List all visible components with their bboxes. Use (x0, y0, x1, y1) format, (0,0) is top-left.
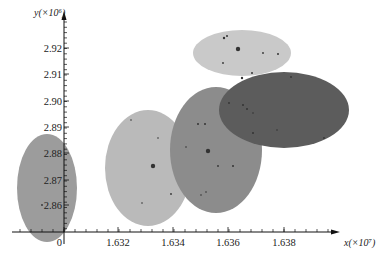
data-point (200, 194, 202, 196)
data-point (251, 72, 253, 74)
data-point (246, 108, 248, 110)
data-point (197, 123, 199, 125)
ellipse-cluster-dark (219, 72, 349, 148)
data-point (185, 146, 187, 148)
data-point (206, 149, 210, 153)
data-point (252, 132, 254, 134)
data-point (130, 119, 132, 121)
x-tick-label: 0 (57, 237, 62, 248)
data-point (232, 165, 234, 167)
x-axis-ticks: 01.6321.6341.6361.638 (20, 227, 328, 248)
y-tick-label: 2.87 (44, 175, 62, 186)
data-point (228, 102, 230, 104)
y-tick-label: 2.86 (44, 200, 62, 211)
data-point (170, 193, 172, 195)
data-point (41, 204, 43, 206)
y-tick-label: 2.88 (44, 148, 62, 159)
data-point (157, 137, 159, 139)
data-point (141, 202, 143, 204)
data-point (223, 37, 225, 39)
data-point (241, 77, 243, 79)
data-point (204, 123, 206, 125)
data-point (290, 76, 292, 78)
data-point (242, 104, 244, 106)
y-axis-label: y(×10⁶) (33, 7, 66, 19)
y-tick-label: 2.90 (44, 96, 62, 107)
x-tick-label: 1.632 (106, 237, 130, 248)
x-tick-label: 1.634 (161, 237, 185, 248)
data-point (205, 191, 207, 193)
x-axis-label: x(×10⁷) (343, 237, 376, 249)
ellipse-cluster-top (193, 30, 291, 76)
x-axis-arrow-icon (331, 230, 340, 235)
data-point (217, 165, 219, 167)
y-tick-label: 2.92 (44, 43, 62, 54)
data-point (277, 53, 279, 55)
cluster-ellipses (17, 30, 349, 242)
data-point (236, 47, 240, 51)
data-point (252, 112, 254, 114)
data-point (323, 137, 325, 139)
data-point (226, 35, 228, 37)
x-tick-label: 1.636 (216, 237, 240, 248)
ellipse-cluster-chart: 01.6321.6341.6361.638 2.922.912.902.892.… (0, 0, 388, 265)
data-point (222, 62, 224, 64)
data-point (276, 129, 278, 131)
y-tick-label: 2.91 (44, 69, 62, 80)
y-tick-label: 2.89 (44, 122, 62, 133)
data-point (151, 164, 155, 168)
x-tick-label: 1.638 (272, 237, 296, 248)
data-point (262, 52, 264, 54)
